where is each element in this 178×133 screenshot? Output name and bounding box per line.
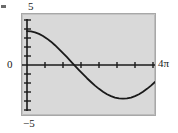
stray-mark-icon: [1, 5, 6, 8]
plot-canvas: [22, 14, 155, 115]
graph-figure: 5 −5 0 4π: [0, 0, 178, 133]
y-axis-max-label: 5: [28, 1, 34, 12]
plot-area: [21, 13, 156, 116]
y-axis-min-label: −5: [23, 118, 35, 129]
x-axis-max-label: 4π: [158, 58, 169, 69]
origin-label: 0: [7, 59, 13, 70]
